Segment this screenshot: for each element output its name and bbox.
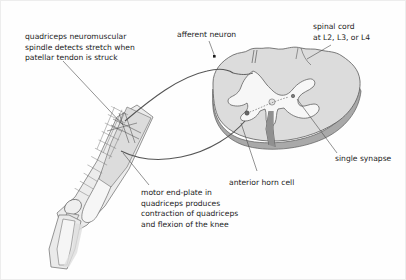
spinal-cord-section [213, 47, 361, 149]
motor-end-plate-label: motor end-plate in quadriceps produces c… [141, 188, 241, 229]
leader-dots [213, 55, 216, 58]
single-synapse-label: single synapse [335, 154, 392, 163]
synapse-marker [291, 94, 294, 97]
leader-spindle [63, 61, 123, 125]
afferent-neuron-label: afferent neuron [177, 30, 236, 39]
quadriceps-spindle-label: quadriceps neuromuscular spindle detects… [25, 32, 137, 62]
spinal-cord-label: spinal cord at L2, L3, or L4 [313, 22, 370, 42]
anterior-horn-cell-label: anterior horn cell [229, 178, 294, 187]
leader-afferent [209, 41, 215, 57]
central-canal [269, 99, 275, 105]
figure-canvas: quadriceps neuromuscular spindle detects… [0, 0, 406, 280]
anatomy-diagram: quadriceps neuromuscular spindle detects… [1, 1, 405, 279]
leg-illustration [49, 101, 153, 269]
